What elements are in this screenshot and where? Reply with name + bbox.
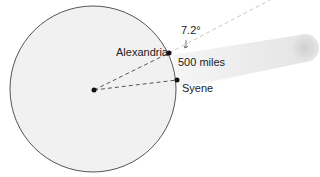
syene-label: Syene xyxy=(182,82,213,94)
angle-label: 7.2° xyxy=(181,24,201,36)
diagram-canvas xyxy=(0,0,320,177)
center-dot xyxy=(92,88,97,93)
angle-marker xyxy=(184,40,188,48)
alexandria-label: Alexandria xyxy=(116,46,168,58)
syene-dot xyxy=(175,78,180,83)
distance-label: 500 miles xyxy=(178,56,225,68)
